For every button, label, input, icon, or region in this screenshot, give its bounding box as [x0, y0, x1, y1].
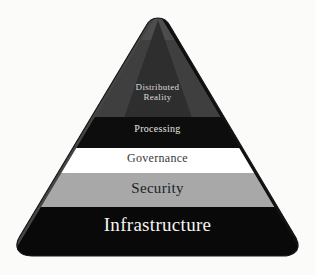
pyramid-body: [0, 0, 315, 275]
screenshot-root: Distributed Reality Processing Governanc…: [0, 0, 315, 275]
layer-band-governance: [0, 148, 315, 173]
layer-band-infrastructure: [0, 207, 315, 267]
layer-band-processing: [0, 117, 315, 148]
layered-pyramid-diagram: Distributed Reality Processing Governanc…: [0, 0, 315, 275]
pyramid-graphic: [0, 0, 315, 275]
